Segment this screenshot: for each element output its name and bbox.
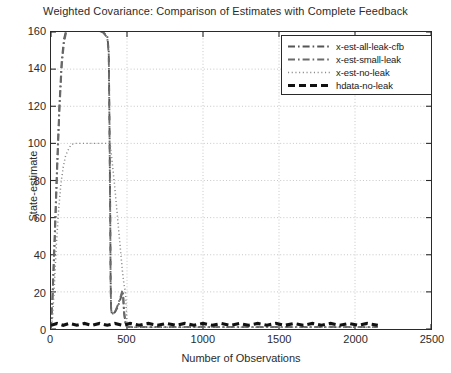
y-tick-label-3: 60 [0,212,46,224]
legend-label: x-est-all-leak-cfb [336,41,404,52]
x-tick-label-3: 1500 [249,333,309,345]
x-axis-label: Number of Observations [50,352,432,364]
figure: Weighted Covariance: Comparison of Estim… [0,0,451,373]
legend-line-sample-icon [287,54,331,65]
y-axis-label: State-estimate [27,106,39,266]
x-tick-label-2: 1000 [173,333,233,345]
legend-item-2[interactable]: x-est-no-leak [287,66,428,79]
y-tick-label-1: 20 [0,287,46,299]
legend-label: hdata-no-leak [336,80,393,91]
y-tick-label-2: 40 [0,249,46,261]
x-tick-label-0: 0 [20,333,80,345]
legend-label: x-est-small-leak [336,54,401,65]
legend-line-sample-icon [287,67,331,78]
legend: x-est-all-leak-cfbx-est-small-leakx-est-… [281,35,432,95]
y-tick-label-4: 80 [0,175,46,187]
legend-line-sample-icon [287,41,331,52]
y-tick-label-8: 160 [0,25,46,37]
legend-item-0[interactable]: x-est-all-leak-cfb [287,40,428,53]
legend-line-sample-icon [287,80,331,91]
x-tick-label-1: 500 [96,333,156,345]
y-tick-label-6: 120 [0,100,46,112]
legend-item-3[interactable]: hdata-no-leak [287,79,428,92]
series-line-3 [51,323,378,325]
series-line-2 [51,143,378,329]
y-tick-label-5: 100 [0,137,46,149]
x-tick-label-5: 2500 [402,333,451,345]
y-tick-label-7: 140 [0,62,46,74]
legend-item-1[interactable]: x-est-small-leak [287,53,428,66]
x-tick-label-4: 2000 [326,333,386,345]
legend-label: x-est-no-leak [336,67,390,78]
chart-title: Weighted Covariance: Comparison of Estim… [0,5,451,17]
